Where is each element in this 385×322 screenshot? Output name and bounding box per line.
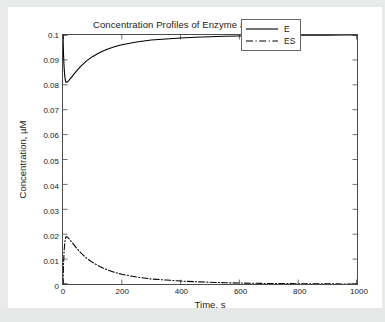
plot-area [63, 35, 357, 284]
legend-item-es[interactable]: ES [245, 35, 295, 47]
x-tick-label: 1000 [350, 287, 368, 296]
y-tick-label: 0.06 [43, 131, 59, 140]
y-tick-label: 0.09 [43, 56, 59, 65]
x-tick-label: 400 [175, 287, 188, 296]
data-series [63, 35, 357, 284]
series-line-es [63, 237, 357, 284]
series-line-e [63, 35, 357, 82]
x-tick-label: 800 [293, 287, 306, 296]
y-axis-label-text: Concentration, µM [18, 121, 29, 199]
chart-title: Concentration Profiles of Enzyme and Com… [8, 19, 382, 30]
y-axis-label: Concentration, µM [16, 34, 30, 285]
legend-line-dashdot-icon [245, 36, 279, 46]
legend-label-es: ES [284, 37, 295, 46]
legend-label-e: E [284, 25, 290, 34]
y-tick-label: 0.07 [43, 106, 59, 115]
y-tick-label: 0.08 [43, 81, 59, 90]
window-bottom-band [0, 308, 385, 322]
chart-legend[interactable]: E ES [241, 19, 301, 51]
figure-window: Concentration Profiles of Enzyme and Com… [0, 0, 385, 322]
y-tick-label: 0.04 [43, 181, 59, 190]
y-tick-label: 0.02 [43, 231, 59, 240]
y-tick-label: 0 [55, 282, 59, 291]
y-tick-label: 0.05 [43, 156, 59, 165]
y-tick-label: 0.1 [48, 31, 59, 40]
y-tick-label: 0.03 [43, 206, 59, 215]
plot-axes: 00.010.020.030.040.050.060.070.080.090.1… [62, 34, 358, 285]
x-tick-label: 200 [116, 287, 129, 296]
y-tick-label: 0.01 [43, 256, 59, 265]
legend-line-solid-icon [245, 24, 279, 34]
matlab-figure-canvas: Concentration Profiles of Enzyme and Com… [8, 7, 382, 308]
tick-marks [63, 35, 357, 284]
legend-item-e[interactable]: E [245, 23, 295, 35]
x-tick-label: 0 [61, 287, 65, 296]
x-tick-label: 600 [234, 287, 247, 296]
